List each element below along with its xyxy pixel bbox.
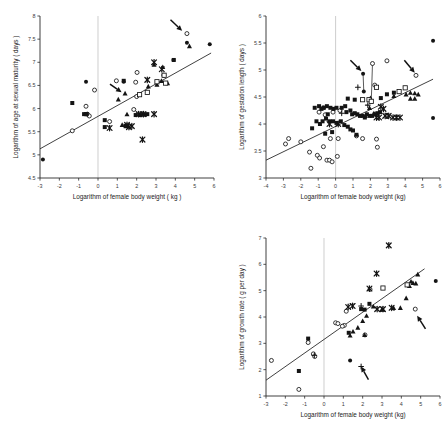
- y-tick-label: 1: [259, 393, 262, 399]
- x-tick-label: 3: [155, 183, 158, 189]
- marker-open-square: [162, 73, 166, 77]
- y-tick-label: 2: [259, 367, 262, 373]
- point-connector: [363, 74, 364, 92]
- series-open-circle: [70, 32, 189, 133]
- marker-filled-circle: [431, 116, 435, 120]
- x-tick-label: 4: [404, 183, 407, 189]
- marker-x: [327, 121, 332, 127]
- marker-filled-square: [314, 119, 318, 123]
- marker-open-square: [381, 286, 385, 290]
- marker-x: [377, 115, 382, 121]
- x-tick-label: 5: [193, 183, 196, 189]
- marker-filled-square: [122, 79, 126, 83]
- panel-sexual-maturity: -3-2-101234564.555.566.577.58Logarithm o…: [0, 0, 224, 212]
- marker-open-circle: [134, 80, 138, 84]
- marker-filled-triangle: [116, 97, 121, 102]
- marker-filled-triangle: [123, 91, 128, 96]
- panel-growth-rate: -3-2-101234561234567Logarithm of female …: [224, 212, 448, 424]
- marker-filled-square: [334, 106, 338, 110]
- marker-filled-square: [343, 104, 347, 108]
- marker-filled-triangle: [412, 96, 417, 101]
- marker-open-circle: [297, 387, 301, 391]
- marker-open-circle: [328, 137, 332, 141]
- x-tick-label: 2: [361, 401, 364, 407]
- marker-x: [152, 111, 157, 117]
- marker-open-circle: [413, 307, 417, 311]
- x-tick-label: -4: [264, 183, 269, 189]
- y-tick-label: 6: [259, 13, 262, 19]
- marker-open-square: [145, 90, 149, 94]
- arrow-shaft: [350, 60, 357, 67]
- x-tick-label: -2: [283, 401, 288, 407]
- annotation-arrow: [171, 20, 183, 31]
- panel-c-canvas: -3-2-101234561234567Logarithm of female …: [224, 212, 448, 424]
- y-tick-label: 7.5: [28, 36, 36, 42]
- y-tick-label: 7: [259, 235, 262, 241]
- x-tick-label: 4: [400, 401, 403, 407]
- marker-filled-square: [103, 118, 107, 122]
- annotation-arrow: [350, 60, 361, 71]
- marker-filled-triangle: [404, 92, 409, 97]
- y-tick-label: 4: [259, 121, 262, 127]
- x-tick-label: 2: [135, 183, 138, 189]
- marker-filled-square: [172, 58, 176, 62]
- arrow-shaft: [171, 20, 179, 27]
- series-open-square: [137, 73, 167, 97]
- marker-filled-square: [385, 92, 389, 96]
- annotation-arrow: [361, 367, 368, 380]
- y-tick-label: 5.5: [28, 129, 36, 135]
- marker-x: [386, 113, 391, 119]
- y-tick-label: 3: [259, 340, 262, 346]
- marker-open-square: [360, 98, 364, 102]
- marker-open-circle: [385, 59, 389, 63]
- x-tick-label: -2: [298, 183, 303, 189]
- marker-filled-square: [310, 126, 314, 130]
- marker-filled-triangle: [404, 296, 409, 301]
- arrow-shaft: [110, 84, 117, 89]
- marker-filled-triangle: [364, 313, 369, 318]
- marker-filled-triangle: [408, 96, 413, 101]
- marker-filled-square: [103, 125, 107, 129]
- marker-filled-triangle: [355, 325, 360, 330]
- marker-filled-square: [324, 117, 328, 121]
- marker-open-circle: [299, 140, 303, 144]
- x-tick-label: 3: [386, 183, 389, 189]
- x-tick-label: 6: [439, 183, 442, 189]
- marker-open-circle: [308, 150, 312, 154]
- marker-filled-square: [323, 132, 327, 136]
- series-filled-triangle: [348, 272, 421, 338]
- marker-x: [140, 137, 145, 143]
- marker-filled-square: [344, 110, 348, 114]
- marker-filled-square: [325, 104, 329, 108]
- x-tick-label: 1: [352, 183, 355, 189]
- marker-filled-square: [379, 96, 383, 100]
- arrow-shaft: [420, 320, 425, 329]
- y-axis-label: Logarithm of age at sexual maturity ( da…: [12, 36, 20, 159]
- y-tick-label: 5: [259, 67, 262, 73]
- marker-filled-triangle: [125, 112, 130, 117]
- x-tick-label: -3: [38, 183, 43, 189]
- panel-b-canvas: -4-3-2-1012345633.544.555.56Logarithm of…: [224, 0, 448, 212]
- marker-open-circle: [340, 324, 344, 328]
- marker-open-circle: [335, 154, 339, 158]
- regression-line: [40, 53, 211, 149]
- marker-open-circle: [330, 160, 334, 164]
- marker-filled-square: [348, 109, 352, 113]
- x-axis-label: Logarithm of female body weight (kg): [300, 411, 405, 419]
- y-tick-label: 6: [33, 106, 36, 112]
- y-tick-label: 4: [259, 314, 262, 320]
- x-tick-label: -3: [281, 183, 286, 189]
- y-tick-label: 7: [33, 59, 36, 65]
- marker-x: [346, 304, 351, 310]
- marker-plus: [355, 85, 360, 90]
- y-axis-label: Logarithm of growth rate ( g per day ): [238, 264, 246, 370]
- marker-filled-triangle: [360, 318, 365, 323]
- x-tick-label: 6: [213, 183, 216, 189]
- x-tick-label: 0: [334, 183, 337, 189]
- y-tick-label: 3.5: [254, 148, 262, 154]
- x-tick-label: 4: [174, 183, 177, 189]
- marker-open-circle: [108, 120, 112, 124]
- marker-x: [398, 115, 403, 121]
- panel-gestation-length: -4-3-2-1012345633.544.555.56Logarithm of…: [224, 0, 448, 212]
- marker-filled-square: [70, 101, 74, 105]
